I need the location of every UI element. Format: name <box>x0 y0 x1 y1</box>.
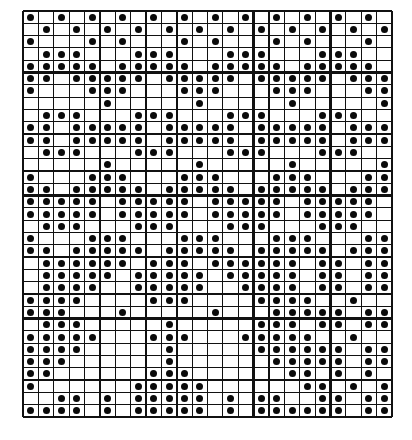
pattern-dot <box>381 174 388 181</box>
pattern-dot <box>304 247 311 254</box>
pattern-dot <box>166 112 173 119</box>
pattern-dot <box>365 186 372 193</box>
pattern-dot <box>43 370 50 377</box>
pattern-dot <box>304 38 311 45</box>
pattern-dot <box>27 247 34 254</box>
pattern-dot <box>181 284 188 291</box>
pattern-dot <box>365 321 372 328</box>
pattern-dot <box>43 211 50 218</box>
pattern-dot <box>365 63 372 70</box>
pattern-dot <box>319 26 326 33</box>
pattern-dot <box>166 75 173 82</box>
pattern-dot <box>181 87 188 94</box>
pattern-dot <box>166 211 173 218</box>
pattern-dot <box>258 334 265 341</box>
pattern-dot <box>150 370 157 377</box>
pattern-dot <box>166 383 173 390</box>
pattern-dot <box>27 87 34 94</box>
pattern-dot <box>381 358 388 365</box>
pattern-dot <box>258 26 265 33</box>
pattern-dot <box>212 174 219 181</box>
pattern-dot <box>350 186 357 193</box>
pattern-dot <box>273 38 280 45</box>
pattern-dot <box>365 272 372 279</box>
pattern-dot <box>350 75 357 82</box>
pattern-dot <box>89 260 96 267</box>
pattern-dot <box>166 223 173 230</box>
pattern-dot <box>258 346 265 353</box>
pattern-dot <box>89 124 96 131</box>
pattern-dot <box>58 63 65 70</box>
pattern-dot <box>89 75 96 82</box>
pattern-dot <box>89 247 96 254</box>
pattern-dot <box>181 14 188 21</box>
pattern-dot <box>289 272 296 279</box>
pattern-dot <box>196 124 203 131</box>
pattern-dot <box>304 124 311 131</box>
pattern-dot <box>335 149 342 156</box>
pattern-dot <box>273 137 280 144</box>
pattern-dot <box>289 137 296 144</box>
pattern-dot <box>258 51 265 58</box>
pattern-dot <box>181 211 188 218</box>
pattern-dot <box>273 186 280 193</box>
grid-line-horizontal <box>23 183 392 184</box>
pattern-dot <box>135 149 142 156</box>
pattern-dot <box>104 272 111 279</box>
pattern-dot <box>196 161 203 168</box>
pattern-dot <box>58 407 65 414</box>
pattern-dot <box>150 149 157 156</box>
pattern-dot <box>73 51 80 58</box>
pattern-dot <box>89 38 96 45</box>
pattern-dot <box>258 297 265 304</box>
pattern-dot <box>27 63 34 70</box>
pattern-dot <box>319 407 326 414</box>
pattern-dot <box>181 174 188 181</box>
pattern-dot <box>135 211 142 218</box>
pattern-dot <box>212 75 219 82</box>
pattern-dot <box>304 137 311 144</box>
pattern-dot <box>135 75 142 82</box>
pattern-dot <box>89 137 96 144</box>
pattern-dot <box>227 63 234 70</box>
pattern-dot <box>166 407 173 414</box>
pattern-dot <box>212 211 219 218</box>
pattern-dot <box>104 100 111 107</box>
pattern-dot <box>43 297 50 304</box>
pattern-dot <box>166 370 173 377</box>
pattern-dot <box>135 284 142 291</box>
pattern-dot <box>304 63 311 70</box>
pattern-dot <box>381 346 388 353</box>
pattern-dot <box>104 161 111 168</box>
pattern-dot <box>242 14 249 21</box>
grid-line-horizontal <box>23 158 392 159</box>
pattern-dot <box>335 63 342 70</box>
pattern-dot <box>319 272 326 279</box>
pattern-dot <box>43 26 50 33</box>
pattern-dot <box>258 198 265 205</box>
pattern-dot <box>58 284 65 291</box>
pattern-dot <box>43 260 50 267</box>
pattern-dot <box>381 321 388 328</box>
pattern-dot <box>43 124 50 131</box>
pattern-dot <box>181 395 188 402</box>
pattern-dot <box>43 186 50 193</box>
pattern-dot <box>289 321 296 328</box>
pattern-dot <box>365 137 372 144</box>
pattern-dot <box>196 186 203 193</box>
pattern-dot <box>227 112 234 119</box>
pattern-dot <box>304 235 311 242</box>
pattern-dot <box>319 198 326 205</box>
pattern-dot <box>43 321 50 328</box>
pattern-dot <box>319 358 326 365</box>
pattern-dot <box>319 284 326 291</box>
pattern-dot <box>319 51 326 58</box>
pattern-dot <box>258 321 265 328</box>
pattern-dot <box>242 112 249 119</box>
pattern-dot <box>273 260 280 267</box>
pattern-dot <box>258 272 265 279</box>
pattern-dot <box>365 247 372 254</box>
pattern-dot <box>304 75 311 82</box>
pattern-dot <box>150 395 157 402</box>
pattern-dot <box>273 14 280 21</box>
